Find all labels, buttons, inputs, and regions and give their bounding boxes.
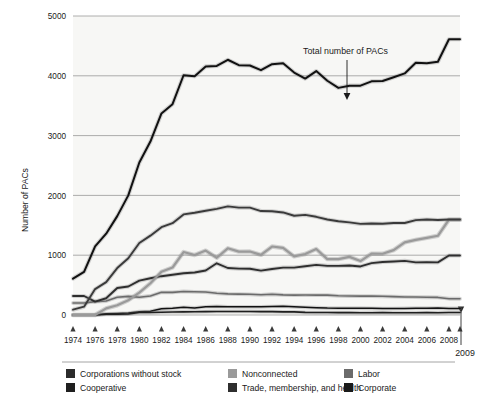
legend-item-label: Corporations without stock <box>80 369 182 379</box>
x-axis-tick-label: 1980 <box>130 336 149 345</box>
y-axis-tick-label: 3000 <box>48 132 67 141</box>
x-axis-tick-label: 1988 <box>219 336 238 345</box>
x-axis-tick-label: 2008 <box>440 336 459 345</box>
end-year-label: 2009 <box>455 348 475 358</box>
y-axis-tick-label: 5000 <box>48 12 67 21</box>
total-pacs-annotation-label: Total number of PACs <box>303 46 389 56</box>
x-axis-tick-label: 1990 <box>241 336 260 345</box>
legend-swatch <box>66 383 75 392</box>
legend-swatch <box>228 369 237 378</box>
x-axis-tick-label: 1976 <box>86 336 105 345</box>
y-axis-tick-label: 2000 <box>48 192 67 201</box>
y-axis-tick-label: 1000 <box>48 251 67 260</box>
x-axis-tick-label: 2004 <box>396 336 415 345</box>
x-axis-tick-label: 1982 <box>152 336 171 345</box>
x-axis-tick-label: 2006 <box>418 336 437 345</box>
y-axis-title: Number of PACs <box>20 168 30 232</box>
pac-growth-line-chart: 010002000300040005000 Number of PACs 197… <box>0 0 482 416</box>
x-axis-tick-label: 1996 <box>307 336 326 345</box>
chart-figure: 010002000300040005000 Number of PACs 197… <box>0 0 482 416</box>
x-axis-tick-label: 2000 <box>351 336 370 345</box>
legend-item-label: Corporate <box>358 383 396 393</box>
x-axis-tick-label: 2002 <box>373 336 392 345</box>
x-axis-tick-label: 1998 <box>329 336 348 345</box>
legend-swatch <box>66 369 75 378</box>
x-axis-tick-label: 1992 <box>263 336 282 345</box>
x-axis-tick-label: 1994 <box>285 336 304 345</box>
x-axis-tick-label: 1978 <box>108 336 127 345</box>
x-axis-tick-label: 1984 <box>174 336 193 345</box>
legend-swatch <box>344 383 353 392</box>
legend-item-label: Nonconnected <box>242 369 298 379</box>
y-axis-tick-label: 0 <box>61 311 66 320</box>
x-axis-tick-label: 1986 <box>197 336 216 345</box>
legend-item-label: Trade, membership, and health <box>242 383 361 393</box>
y-axis-tick-label: 4000 <box>48 72 67 81</box>
legend-swatch <box>228 383 237 392</box>
legend-item-label: Labor <box>358 369 380 379</box>
legend-item-label: Cooperative <box>80 383 127 393</box>
x-axis-tick-label: 1974 <box>64 336 83 345</box>
legend-swatch <box>344 369 353 378</box>
